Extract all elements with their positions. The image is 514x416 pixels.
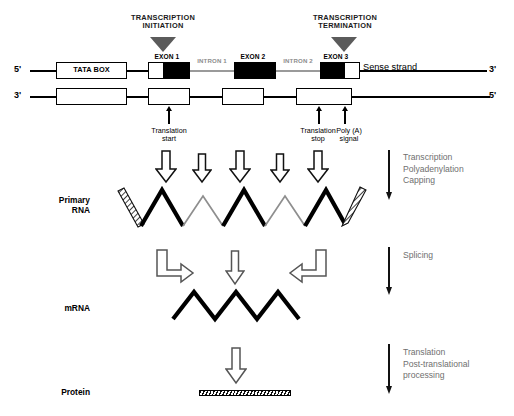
antisense-box-4 [296,88,352,105]
mrna-zigzag [170,288,302,322]
splicing-process-arrow [386,247,393,295]
translation-down-arrow [225,347,247,385]
transcription-initiation-triangle-icon [150,37,176,52]
antisense-strand-5-prime-label: 5' [489,90,496,100]
antisense-strand-3-prime-label: 3' [14,90,21,100]
primary-rna-zigzag [108,186,368,232]
intron-2-line [276,70,320,72]
transcription-termination-label: TRANSCRIPTION TERMINATION [286,14,404,31]
sense-strand-label: Sense strand [363,62,417,72]
sense-backbone-b [127,70,148,72]
mrna-label: mRNA [28,304,90,314]
transcription-block-arrow-5 [307,150,329,184]
protein-label: Protein [28,388,90,398]
gene-expression-diagram: TRANSCRIPTION INITIATION TRANSCRIPTION T… [0,0,514,416]
transcription-process-arrow [386,150,393,200]
exon-1-coding-fill [163,63,189,78]
antisense-box-1 [56,88,127,105]
translation-process-arrow [386,344,393,394]
antisense-box-2 [148,88,190,105]
transcription-block-arrow-1 [155,150,177,184]
translation-start-tick-icon [166,106,172,125]
antisense-box-3 [222,88,264,105]
transcription-block-arrow-3 [229,150,251,184]
poly-a-signal-tick-icon [342,106,348,125]
exon-1-box [148,62,190,79]
transcription-termination-triangle-icon [331,37,357,52]
exon-3-box [320,62,360,79]
translation-stop-tick-icon [316,106,322,125]
transcription-initiation-label: TRANSCRIPTION INITIATION [108,14,218,31]
exon-2-label: EXON 2 [229,53,277,60]
transcription-block-arrow-2 [192,153,212,184]
sense-backbone-a [30,70,56,72]
poly-a-signal-label: Poly (A) signal [324,127,374,144]
splicing-down-arrow [225,250,245,286]
protein-bar [199,390,291,396]
translation-start-label: Translation start [138,127,200,144]
splicing-bent-arrow-right [155,248,195,285]
transcription-block-arrow-4 [270,153,290,184]
exon-1-label: EXON 1 [143,53,191,60]
sense-strand-5-prime-label: 5' [14,64,21,74]
primary-rna-label: Primary RNA [28,196,90,216]
tata-box-label: TATA BOX [56,66,127,74]
intron-1-line [190,70,234,72]
exon-3-label: EXON 3 [314,53,358,60]
exon-3-coding-fill [321,63,345,78]
translation-process-label: Translation Post-translational processin… [403,347,514,382]
transcription-process-label: Transcription Polyadenylation Capping [403,152,511,187]
sense-strand-3-prime-label: 3' [489,64,496,74]
splicing-bent-arrow-left [288,248,328,285]
splicing-process-label: Splicing [403,250,511,262]
exon-2-box [234,62,276,79]
